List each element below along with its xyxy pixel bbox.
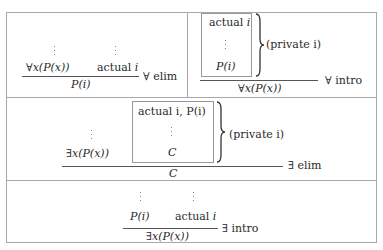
- ellipsis-left: [54, 43, 56, 55]
- box-result: C: [168, 147, 176, 159]
- premise-actual: actual i: [175, 211, 216, 223]
- divider-row-1: [6, 97, 377, 98]
- ellipsis-right: [115, 43, 117, 55]
- brace-label: (private i): [266, 39, 321, 51]
- inference-rule-line: [123, 228, 218, 229]
- conclusion: ∃x(P(x)): [146, 231, 189, 243]
- ellipsis-left: [91, 127, 93, 139]
- premise-exists: ∃x(P(x)): [66, 148, 109, 160]
- premise-forall: ∀x(P(x)): [26, 62, 70, 74]
- box-assumption: actual i, P(i): [138, 106, 206, 118]
- premise-p: P(i): [130, 211, 150, 223]
- brace-label: (private i): [229, 129, 284, 141]
- ellipsis: [171, 124, 173, 136]
- conclusion: P(i): [71, 79, 91, 91]
- inference-rule-line: [200, 80, 318, 81]
- rule-label: ∀ elim: [143, 71, 177, 83]
- brace-icon: [255, 13, 265, 77]
- rule-label: ∀ intro: [325, 75, 362, 87]
- premise-actual: actual i: [97, 62, 138, 74]
- divider-row-2: [6, 180, 377, 181]
- conclusion: ∀x(P(x)): [238, 83, 282, 95]
- divider-col: [187, 12, 188, 97]
- box-result: P(i): [216, 61, 236, 73]
- brace-icon: [216, 101, 226, 163]
- rule-label: ∃ intro: [222, 223, 258, 235]
- ellipsis-right: [193, 189, 195, 201]
- rule-label: ∃ elim: [288, 160, 321, 172]
- conclusion: C: [169, 168, 177, 180]
- ellipsis: [225, 37, 227, 49]
- inference-rule-line: [22, 76, 139, 77]
- ellipsis-left: [140, 189, 142, 201]
- box-assumption: actual i: [209, 17, 250, 29]
